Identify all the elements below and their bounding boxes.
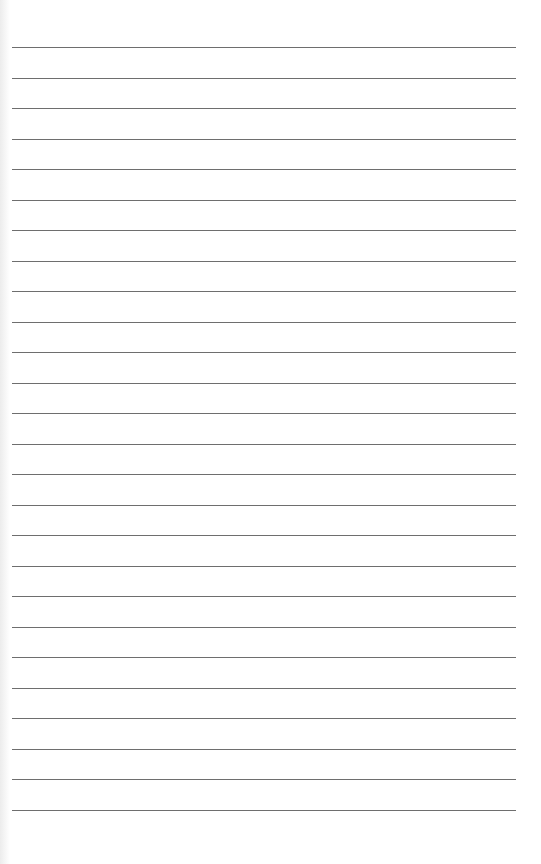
- ruled-line: [12, 169, 516, 170]
- ruled-line: [12, 749, 516, 750]
- ruled-line: [12, 535, 516, 536]
- ruled-line: [12, 78, 516, 79]
- ruled-line: [12, 261, 516, 262]
- ruled-line: [12, 566, 516, 567]
- ruled-line: [12, 627, 516, 628]
- ruled-line: [12, 383, 516, 384]
- ruled-line: [12, 810, 516, 811]
- ruled-line: [12, 200, 516, 201]
- ruled-line: [12, 322, 516, 323]
- ruled-line: [12, 444, 516, 445]
- ruled-line: [12, 230, 516, 231]
- ruled-line: [12, 291, 516, 292]
- ruled-line: [12, 413, 516, 414]
- ruled-line: [12, 474, 516, 475]
- ruled-line: [12, 779, 516, 780]
- ruled-line: [12, 352, 516, 353]
- ruled-line: [12, 718, 516, 719]
- ruled-line: [12, 505, 516, 506]
- page-edge-shadow: [0, 0, 10, 864]
- ruled-line: [12, 139, 516, 140]
- ruled-line: [12, 657, 516, 658]
- ruled-line: [12, 596, 516, 597]
- ruled-line: [12, 108, 516, 109]
- ruled-line: [12, 688, 516, 689]
- ruled-line: [12, 47, 516, 48]
